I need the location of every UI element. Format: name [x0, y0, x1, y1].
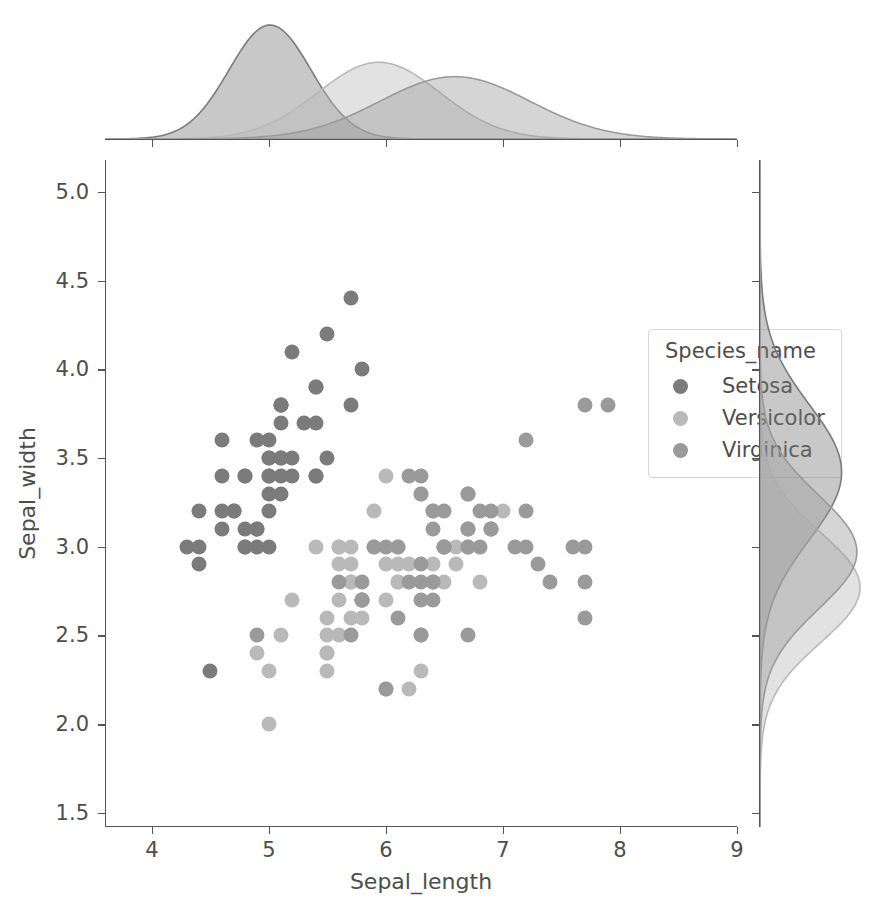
scatter-point — [378, 681, 393, 696]
scatter-point — [437, 539, 452, 554]
scatter-point — [577, 575, 592, 590]
scatter-point — [285, 344, 300, 359]
scatter-point — [273, 628, 288, 643]
scatter-point — [215, 468, 230, 483]
marginal-x-axes — [105, 10, 737, 140]
scatter-point — [355, 575, 370, 590]
marginal-x-tick-mark — [386, 140, 387, 147]
joint-bottom-spine — [105, 826, 737, 827]
y-tick-label: 2.5 — [56, 623, 89, 647]
marginal-y-tick-mark — [752, 192, 759, 193]
joint-left-spine — [105, 160, 106, 827]
y-tick-mark — [98, 369, 105, 370]
scatter-point — [425, 521, 440, 536]
y-tick-mark — [98, 458, 105, 459]
y-tick-mark — [98, 547, 105, 548]
y-tick-mark — [98, 192, 105, 193]
marginal-x-tick-mark — [737, 140, 738, 147]
scatter-point — [519, 504, 534, 519]
scatter-point — [332, 592, 347, 607]
scatter-point — [378, 468, 393, 483]
scatter-point — [414, 592, 429, 607]
legend-swatch-icon — [673, 379, 688, 394]
legend-swatch-icon — [673, 411, 688, 426]
scatter-point — [519, 539, 534, 554]
scatter-point — [378, 557, 393, 572]
scatter-point — [308, 539, 323, 554]
scatter-point — [425, 504, 440, 519]
scatter-point — [367, 539, 382, 554]
scatter-point — [273, 397, 288, 412]
scatter-point — [414, 663, 429, 678]
scatter-point — [261, 663, 276, 678]
scatter-point — [261, 451, 276, 466]
scatter-point — [320, 663, 335, 678]
scatter-point — [355, 592, 370, 607]
scatter-point — [191, 504, 206, 519]
marginal-y-tick-mark — [752, 547, 759, 548]
jointplot-figure: 456789 1.52.02.53.03.54.04.55.0 Species_… — [0, 0, 884, 909]
marginal-x-kde — [105, 10, 737, 140]
marginal-x-tick-mark — [269, 140, 270, 147]
scatter-point — [296, 415, 311, 430]
scatter-point — [414, 486, 429, 501]
scatter-point — [238, 539, 253, 554]
scatter-point — [484, 521, 499, 536]
x-tick-mark — [269, 827, 270, 834]
scatter-point — [320, 451, 335, 466]
y-tick-mark — [98, 635, 105, 636]
scatter-point — [577, 539, 592, 554]
x-tick-mark — [152, 827, 153, 834]
scatter-point — [460, 539, 475, 554]
marginal-y-kde-curve — [760, 160, 857, 827]
scatter-point — [601, 397, 616, 412]
scatter-point — [355, 362, 370, 377]
scatter-point — [472, 575, 487, 590]
x-tick-label: 4 — [145, 838, 158, 862]
scatter-point — [273, 468, 288, 483]
marginal-x-tick-mark — [152, 140, 153, 147]
marginal-x-tick-mark — [620, 140, 621, 147]
scatter-point — [402, 468, 417, 483]
scatter-point — [320, 610, 335, 625]
scatter-point — [460, 521, 475, 536]
marginal-y-tick-mark — [752, 369, 759, 370]
scatter-point — [215, 521, 230, 536]
marginal-y-tick-mark — [752, 281, 759, 282]
marginal-x-bottom-spine — [105, 139, 737, 140]
scatter-point — [320, 646, 335, 661]
y-tick-mark — [98, 813, 105, 814]
y-axis-label-text: Sepal_width — [15, 427, 40, 560]
scatter-point — [402, 681, 417, 696]
scatter-point — [285, 451, 300, 466]
x-tick-mark — [620, 827, 621, 834]
marginal-y-tick-mark — [752, 813, 759, 814]
scatter-point — [343, 539, 358, 554]
scatter-point — [320, 628, 335, 643]
scatter-point — [215, 504, 230, 519]
scatter-point — [215, 433, 230, 448]
scatter-point — [367, 504, 382, 519]
scatter-point — [261, 539, 276, 554]
legend-swatch-icon — [673, 443, 688, 458]
marginal-y-tick-mark — [752, 458, 759, 459]
x-tick-label: 7 — [496, 838, 509, 862]
y-tick-label: 4.5 — [56, 269, 89, 293]
scatter-point — [332, 575, 347, 590]
x-tick-label: 5 — [262, 838, 275, 862]
scatter-point — [577, 397, 592, 412]
joint-scatter-axes: 456789 1.52.02.53.03.54.04.55.0 Species_… — [105, 160, 737, 827]
scatter-point — [414, 628, 429, 643]
scatter-point — [355, 610, 370, 625]
y-tick-label: 3.5 — [56, 446, 89, 470]
y-tick-mark — [98, 724, 105, 725]
scatter-point — [449, 557, 464, 572]
x-tick-label: 8 — [613, 838, 626, 862]
scatter-point — [273, 415, 288, 430]
x-tick-label: 9 — [730, 838, 743, 862]
scatter-point — [343, 557, 358, 572]
scatter-point — [238, 468, 253, 483]
scatter-point — [460, 486, 475, 501]
x-tick-mark — [737, 827, 738, 834]
y-tick-mark — [98, 281, 105, 282]
